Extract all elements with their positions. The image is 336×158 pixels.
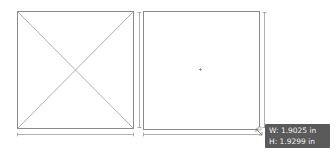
dimension-tooltip: W: 1.9025 in H: 1.9299 in xyxy=(265,124,330,148)
height-readout: H: 1.9299 in xyxy=(269,136,330,147)
width-dimension-line-right xyxy=(144,133,260,137)
selected-frame[interactable] xyxy=(144,12,260,130)
resize-handle[interactable] xyxy=(258,127,261,130)
placeholder-frame[interactable] xyxy=(18,12,134,129)
height-dimension-line-right xyxy=(263,12,267,128)
width-readout: W: 1.9025 in xyxy=(269,125,330,136)
width-dimension-line-left xyxy=(18,133,134,137)
center-mark-icon xyxy=(199,68,202,71)
height-dimension-line-left xyxy=(138,12,142,128)
